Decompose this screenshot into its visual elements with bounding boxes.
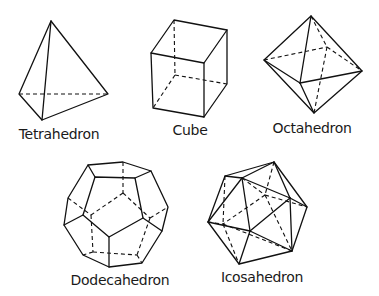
label-cube: Cube [173, 122, 208, 138]
label-dodecahedron: Dodecahedron [71, 272, 170, 288]
tetrahedron-figure [19, 21, 108, 120]
platonic-solids-diagram: Tetrahedron Cube Octahedron Dodecahedron… [0, 0, 379, 296]
cube-figure [151, 20, 227, 117]
solids-drawing [0, 0, 379, 296]
label-octahedron: Octahedron [272, 120, 351, 136]
label-icosahedron: Icosahedron [221, 269, 303, 285]
octahedron-figure [264, 16, 362, 113]
dodecahedron-figure [64, 162, 168, 267]
icosahedron-figure [208, 162, 307, 264]
label-tetrahedron: Tetrahedron [19, 126, 100, 142]
